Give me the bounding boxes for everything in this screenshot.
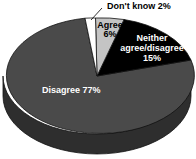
label-disagree: Disagree 77% [42,85,101,95]
label-dont-know: Don't know 2% [107,1,171,11]
label-neither-line1: Neither [136,33,168,43]
label-neither-line2: agree/disagree [120,43,184,53]
label-neither-line3: 15% [143,53,161,63]
label-agree-value: 6% [103,29,116,39]
pie-chart: Don't know 2% Agree 6% Neither agree/dis… [0,0,196,159]
